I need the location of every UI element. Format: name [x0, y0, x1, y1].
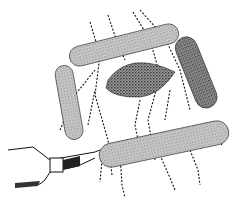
probe-tool	[8, 147, 100, 188]
bacteria	[54, 22, 231, 170]
bacteria-illustration	[0, 0, 238, 202]
bacterium-bottom	[97, 119, 231, 170]
bacterium-center	[106, 63, 175, 97]
bacterium-top	[67, 22, 181, 69]
bacterium-right	[172, 34, 220, 112]
bacterium-left	[54, 64, 85, 141]
